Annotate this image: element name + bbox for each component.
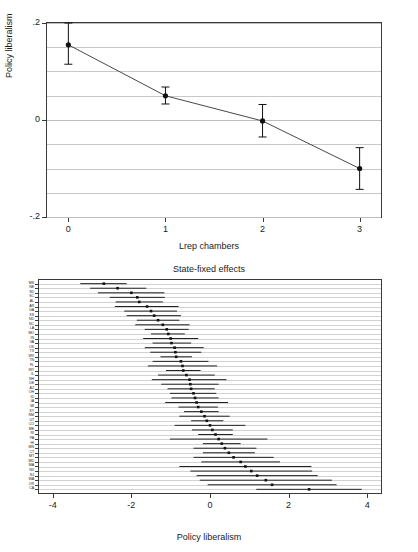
y-tick-mark <box>35 471 38 472</box>
data-point <box>174 351 177 354</box>
y-tick-mark <box>35 466 38 467</box>
marginal-effects-panel: Policy liberalism -.20.20123 Lrep chambe… <box>0 0 418 262</box>
y-tick-mark <box>35 325 38 326</box>
data-point <box>66 42 71 47</box>
data-point <box>180 360 183 363</box>
data-point <box>217 438 220 441</box>
data-point <box>357 166 362 171</box>
plot-area-bottom <box>38 279 382 494</box>
x-tick-label: 0 <box>195 500 225 510</box>
x-tick-mark <box>289 494 290 498</box>
y-tick-mark <box>35 457 38 458</box>
data-point <box>165 328 168 331</box>
plot-area-top <box>46 22 382 218</box>
y-tick-mark <box>35 339 38 340</box>
x-tick-mark <box>210 494 211 498</box>
y-tick-label: -.2 <box>29 212 40 221</box>
y-tick-mark <box>35 480 38 481</box>
x-tick-label: -4 <box>38 500 68 510</box>
data-point <box>170 342 173 345</box>
y-tick-mark <box>35 393 38 394</box>
y-tick-mark <box>35 288 38 289</box>
x-tick-label: 1 <box>150 224 180 234</box>
data-point <box>167 333 170 336</box>
y-tick-mark <box>35 334 38 335</box>
y-tick-mark <box>35 357 38 358</box>
data-point <box>265 479 268 482</box>
x-tick-mark <box>53 494 54 498</box>
data-point <box>162 323 165 326</box>
y-tick-mark <box>35 361 38 362</box>
data-point <box>203 415 206 418</box>
y-tick-mark <box>35 293 38 294</box>
data-point <box>250 470 253 473</box>
data-point <box>188 378 191 381</box>
y-tick-mark <box>35 407 38 408</box>
y-tick-mark <box>35 476 38 477</box>
data-point <box>175 355 178 358</box>
y-tick-mark <box>35 302 38 303</box>
y-tick-mark <box>35 320 38 321</box>
data-point <box>169 337 172 340</box>
data-point <box>163 93 168 98</box>
series-layer-bottom <box>39 280 381 493</box>
y-tick-mark <box>35 375 38 376</box>
data-point <box>190 387 193 390</box>
data-point <box>239 461 242 464</box>
x-tick-label: 3 <box>345 224 375 234</box>
y-tick-mark <box>35 371 38 372</box>
y-tick-mark <box>35 425 38 426</box>
data-point <box>157 319 160 322</box>
data-point <box>214 433 217 436</box>
y-tick-mark <box>35 412 38 413</box>
y-tick-mark <box>35 434 38 435</box>
y-tick-mark <box>35 416 38 417</box>
y-tick-mark <box>35 384 38 385</box>
y-tick-mark <box>35 485 38 486</box>
y-tick-mark <box>35 311 38 312</box>
y-tick-mark <box>42 120 46 121</box>
y-tick-mark <box>35 489 38 490</box>
y-tick-mark <box>35 307 38 308</box>
y-tick-mark <box>35 453 38 454</box>
y-tick-mark <box>35 380 38 381</box>
data-point <box>173 346 176 349</box>
y-tick-mark <box>35 430 38 431</box>
x-tick-label: 4 <box>352 500 382 510</box>
x-tick-label: 0 <box>53 224 83 234</box>
y-tick-mark <box>42 217 46 218</box>
data-point <box>209 424 212 427</box>
y-tick-mark <box>35 439 38 440</box>
y-tick-mark <box>35 402 38 403</box>
x-axis-title-bottom: Policy liberalism <box>0 532 418 542</box>
state-label: MO <box>28 332 34 336</box>
y-tick-mark <box>35 389 38 390</box>
data-point <box>153 314 156 317</box>
data-point <box>146 305 149 308</box>
data-point <box>228 451 231 454</box>
x-tick-mark <box>131 494 132 498</box>
y-tick-mark <box>35 448 38 449</box>
data-point <box>206 419 209 422</box>
data-point <box>182 369 185 372</box>
state-label: AL <box>30 300 34 304</box>
y-tick-label: .2 <box>32 18 40 27</box>
y-tick-mark <box>35 352 38 353</box>
y-tick-mark <box>35 421 38 422</box>
y-tick-mark <box>35 366 38 367</box>
x-tick-label: 2 <box>274 500 304 510</box>
data-point <box>200 410 203 413</box>
data-point <box>138 301 141 304</box>
x-tick-mark <box>367 494 368 498</box>
data-point <box>116 287 119 290</box>
data-point <box>103 282 106 285</box>
data-point <box>256 474 259 477</box>
y-tick-mark <box>35 343 38 344</box>
data-point <box>195 401 198 404</box>
y-tick-mark <box>35 316 38 317</box>
data-point <box>136 296 139 299</box>
data-point <box>192 392 195 395</box>
series-layer-top <box>47 23 381 217</box>
y-tick-mark <box>35 284 38 285</box>
y-tick-mark <box>35 462 38 463</box>
